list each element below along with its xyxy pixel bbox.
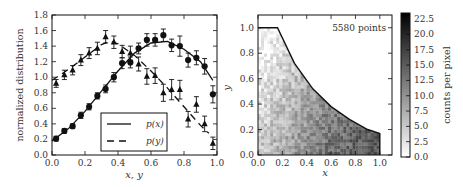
colorbar-tick-label: 7.5 [414,106,429,116]
px-data-point [210,86,216,103]
colorbar-label: counts per pixel [441,46,452,123]
py-data-point [119,45,125,57]
legend-label-px: p(x) [146,119,164,129]
px-data-point [70,123,76,129]
y-tick-label: 1.4 [34,41,49,51]
py-data-point [202,116,208,132]
colorbar-tick-label: 15.0 [414,60,434,70]
colorbar-tick-label: 0.0 [414,152,429,162]
py-data-point [61,70,67,79]
py-data-point [152,68,158,84]
py-data-point [136,57,142,71]
legend: p(x) p(y) [101,113,167,151]
py-data-point [78,55,84,66]
px-data-point [185,53,191,67]
y-tick-label: 1.2 [34,57,48,67]
py-data-point [53,80,59,88]
right-y-axis-label: y [221,85,232,92]
px-data-point [152,34,158,46]
px-data-point [78,112,84,118]
px-data-point [61,128,67,134]
x-tick-label: 0.8 [348,158,363,168]
py-data-point [127,46,133,60]
colorbar-tick-label: 5.0 [414,121,429,131]
x-tick-label: 0.2 [78,158,92,168]
colorbar-tick-label: 22.5 [414,14,434,24]
figure: 0.00.20.40.60.81.0 0.00.20.40.60.81.01.2… [0,0,463,187]
left-plot: 0.00.20.40.60.81.0 0.00.20.40.60.81.01.2… [14,10,224,180]
py-data-point [193,97,199,113]
x-tick-label: 1.0 [210,158,225,168]
x-tick-label: 0.2 [275,158,289,168]
x-tick-label: 1.0 [373,158,388,168]
left-y-axis-label: normalized distribution [14,28,25,141]
px-data-point [177,36,183,56]
px-data-point [193,51,199,65]
colorbar-tick-label: 2.5 [414,137,429,147]
y-tick-label: 1.6 [34,26,49,36]
py-data-point [70,66,76,75]
colorbar-tick-label: 12.5 [414,75,434,85]
y-tick-label: 0.2 [34,134,48,144]
colorbar-tick-label: 10.0 [414,91,434,101]
right-x-axis-label: x [322,167,328,178]
y-tick-label: 0.8 [240,48,255,58]
y-tick-label: 1.0 [240,23,255,33]
x-tick-label: 0.4 [300,158,315,168]
py-data-point [86,48,92,59]
y-tick-label: 0.8 [34,88,49,98]
y-tick-label: 0.2 [240,125,254,135]
py-data-point [177,80,183,99]
colorbar: 0.02.55.07.510.012.515.017.520.022.5 cou… [401,13,452,162]
x-tick-label: 0.4 [111,158,126,168]
right-plot: 0.00.20.40.60.81.0 0.00.20.40.60.81.0 x … [221,15,392,178]
px-data-point [53,136,59,142]
colorbar-tick-label: 17.5 [414,45,434,55]
px-data-point [94,93,100,99]
py-data-point [144,69,150,85]
y-tick-label: 1.0 [34,72,49,82]
py-data-point [94,42,100,54]
y-tick-label: 0.0 [240,150,255,160]
py-data-point [185,111,191,127]
y-tick-label: 0.6 [34,103,49,113]
px-data-point [169,39,175,51]
left-x-axis-label: x, y [125,169,143,180]
y-tick-label: 0.4 [34,119,49,129]
x-tick-label: 0.8 [177,158,192,168]
colorbar-tick-label: 20.0 [414,29,434,39]
py-data-point [103,31,109,43]
heatmap-cells [258,28,380,156]
points-count-annotation: 5580 points [332,23,386,33]
py-data-point [160,84,166,101]
px-data-point [86,104,92,110]
px-data-point [103,85,109,93]
x-tick-label: 0.6 [144,158,159,168]
legend-label-py: p(y) [146,136,164,146]
y-tick-label: 1.8 [34,10,49,20]
px-data-point [119,58,125,69]
py-data-point [210,137,216,149]
px-data-point [160,29,166,41]
y-tick-label: 0.4 [240,99,255,109]
y-tick-label: 0.6 [240,74,255,84]
y-tick-label: 0.0 [34,150,49,160]
